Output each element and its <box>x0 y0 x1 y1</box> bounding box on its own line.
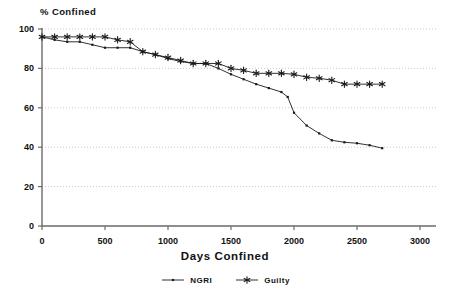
data-point-marker <box>369 144 371 146</box>
data-point-marker <box>91 44 93 46</box>
data-point-marker <box>318 132 320 134</box>
data-point-marker <box>280 91 282 93</box>
data-point-marker <box>172 279 174 281</box>
legend-item-ngri[interactable]: NGRI <box>160 275 212 285</box>
data-point-marker <box>104 47 106 49</box>
chart-container: % Confined 020406080100 0500100015002000… <box>0 0 450 301</box>
data-point-marker <box>66 41 68 43</box>
data-point-marker <box>217 67 219 69</box>
data-point-marker <box>129 47 131 49</box>
data-point-marker <box>381 147 383 149</box>
data-point-marker <box>230 73 232 75</box>
data-point-marker <box>343 141 345 143</box>
data-point-marker <box>255 83 257 85</box>
data-point-marker <box>117 47 119 49</box>
data-point-marker <box>287 96 289 98</box>
legend-marker-icon <box>234 275 260 285</box>
data-point-marker <box>243 78 245 80</box>
legend-marker-icon <box>160 275 186 285</box>
data-point-marker <box>306 124 308 126</box>
legend-label: Guilty <box>264 276 290 285</box>
legend-label: NGRI <box>190 276 212 285</box>
chart-legend: NGRIGuilty <box>0 275 450 285</box>
data-point-marker <box>293 112 295 114</box>
data-point-marker <box>79 41 81 43</box>
legend-item-guilty[interactable]: Guilty <box>234 275 290 285</box>
data-point-marker <box>268 87 270 89</box>
data-point-marker <box>331 139 333 141</box>
axis-lines <box>42 28 436 226</box>
data-point-marker <box>356 142 358 144</box>
x-axis-title: Days Confined <box>0 250 450 262</box>
series-line-ngri <box>42 37 382 148</box>
